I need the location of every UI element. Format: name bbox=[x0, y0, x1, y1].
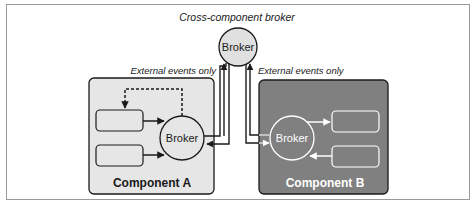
diagram-title: Cross-component broker bbox=[179, 11, 295, 23]
component-b-processor-2 bbox=[332, 146, 379, 167]
central-broker: Broker bbox=[219, 28, 257, 66]
component-a-processor-1 bbox=[96, 110, 143, 131]
right-edge-label: External events only bbox=[258, 65, 345, 76]
component-b-broker-label: Broker bbox=[276, 132, 309, 144]
component-a-label: Component A bbox=[113, 176, 192, 190]
component-a-processor-2 bbox=[96, 145, 143, 166]
component-a-broker-label: Broker bbox=[166, 132, 199, 144]
component-b-label: Component B bbox=[286, 176, 365, 190]
component-b: Broker Component B bbox=[259, 80, 388, 194]
component-b-processor-1 bbox=[332, 111, 379, 132]
left-edge-label: External events only bbox=[130, 65, 217, 76]
event-broker-diagram: Cross-component broker Broker External e… bbox=[0, 0, 474, 207]
central-broker-label: Broker bbox=[222, 41, 255, 53]
component-a: Broker Component A bbox=[89, 78, 214, 194]
